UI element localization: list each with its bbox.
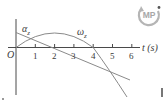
angular-motion-graph: O 1 2 3 4 5 6 t (s) αz ωz MP [0,0,168,103]
tick-label-2: 2 [52,51,57,61]
tick-label-6: 6 [129,51,134,61]
tick-label-4: 4 [91,51,96,61]
origin-label: O [7,50,14,60]
tick-label-1: 1 [33,51,38,61]
time-axis-label: t (s) [142,43,158,53]
tick-label-3: 3 [71,51,76,61]
corner-mark [2,98,4,100]
alpha-z-label: αz [22,24,30,38]
omega-z-label: ωz [77,27,87,41]
tick-label-5: 5 [110,51,115,61]
omega-z-curve [16,33,127,97]
page-marker [161,88,163,97]
mastering-physics-badge-icon: MP [136,3,162,29]
badge-text: MP [136,10,162,20]
